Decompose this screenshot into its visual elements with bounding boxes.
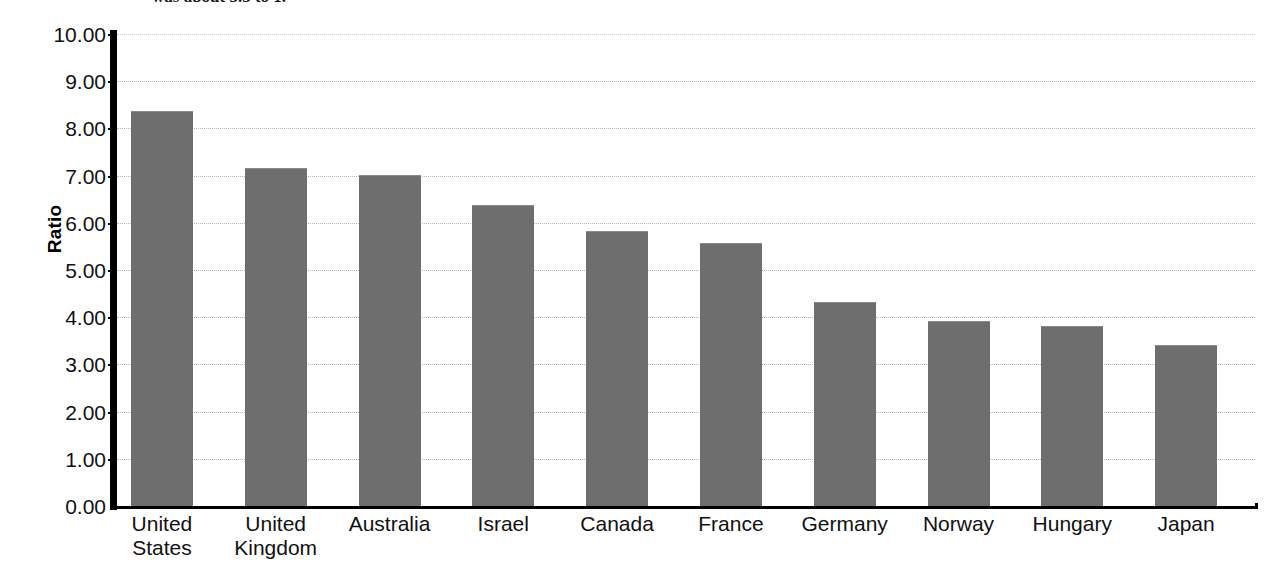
y-axis-tick-label: 8.00 [22, 118, 106, 139]
x-axis-tick-label-line: Kingdom [221, 536, 331, 560]
x-axis-tick-label-line: United [107, 512, 217, 536]
x-axis-tick-label: UnitedKingdom [221, 512, 331, 559]
y-axis-tick-labels: 10.009.008.007.006.005.004.003.002.001.0… [22, 0, 106, 576]
y-axis-tick-mark [108, 223, 117, 225]
x-axis-tick-label: Canada [562, 512, 672, 536]
x-axis-tick-label-line: Israel [448, 512, 558, 536]
bar [359, 175, 421, 506]
x-axis-tick-label-line: Australia [335, 512, 445, 536]
x-axis-tick-label: France [676, 512, 786, 536]
y-axis-tick-label: 4.00 [22, 307, 106, 328]
y-axis-tick-mark [108, 459, 117, 461]
bar [1155, 345, 1217, 506]
bar [131, 111, 193, 506]
y-axis-tick-mark [108, 270, 117, 272]
bar [814, 302, 876, 506]
y-axis-tick-label: 7.00 [22, 165, 106, 186]
y-axis-tick-label: 1.00 [22, 448, 106, 469]
bar [700, 243, 762, 506]
y-axis-tick-mark [108, 81, 117, 83]
plot-area [117, 34, 1255, 506]
x-axis-tick-label: Germany [790, 512, 900, 536]
x-axis-tick-label: Australia [335, 512, 445, 536]
y-axis-tick-label: 5.00 [22, 260, 106, 281]
y-axis-tick-mark [108, 34, 117, 36]
x-axis-tick-label-line: France [676, 512, 786, 536]
x-axis-tick-label-line: Germany [790, 512, 900, 536]
bar-chart-figure: Ratio 10.009.008.007.006.005.004.003.002… [0, 0, 1275, 576]
y-axis-tick-label: 9.00 [22, 71, 106, 92]
x-axis-tick-label: UnitedStates [107, 512, 217, 559]
x-axis-tick-labels: UnitedStatesUnitedKingdomAustraliaIsrael… [117, 512, 1255, 574]
y-axis-tick-mark [108, 412, 117, 414]
x-axis-tick-label-line: United [221, 512, 331, 536]
x-axis-tick-label-line: Hungary [1017, 512, 1127, 536]
bar [245, 168, 307, 506]
y-axis-tick-mark [108, 128, 117, 130]
y-axis-tick-label: 2.00 [22, 401, 106, 422]
y-axis-tick-label: 6.00 [22, 212, 106, 233]
y-axis-tick-label: 0.00 [22, 496, 106, 517]
x-axis-tick-label: Japan [1131, 512, 1241, 536]
x-axis-tick-label-line: Japan [1131, 512, 1241, 536]
y-axis-tick-mark [108, 364, 117, 366]
x-axis-tick-label: Norway [904, 512, 1014, 536]
y-axis-tick-mark [108, 176, 117, 178]
y-axis-tick-label: 3.00 [22, 354, 106, 375]
x-axis-tick-label-line: Norway [904, 512, 1014, 536]
x-axis-tick-label: Hungary [1017, 512, 1127, 536]
x-axis-tick-label: Israel [448, 512, 558, 536]
y-axis-tick-label: 10.00 [22, 24, 106, 45]
bar [472, 205, 534, 506]
x-axis-tick-label-line: States [107, 536, 217, 560]
x-axis-tick-label-line: Canada [562, 512, 672, 536]
bar [928, 321, 990, 506]
y-axis-tick-mark [108, 317, 117, 319]
bar [586, 231, 648, 506]
bars-group [117, 34, 1255, 506]
bar [1041, 326, 1103, 506]
